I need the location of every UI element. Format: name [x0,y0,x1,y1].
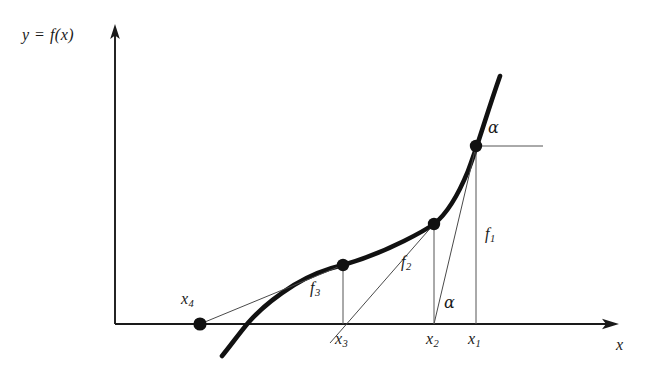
ordinate-lines [343,146,476,324]
ordinate-label-f3-sub: 3 [314,287,320,298]
ordinate-label-f1-sub: 1 [489,233,495,244]
ordinate-label-f2: f2 [401,254,411,273]
figure-root: y = f(x) x x1 x2 x3 x4 f1 f2 f3 α α [0,0,654,371]
angle-label-alpha-bottom: α [444,295,455,311]
tick-label-x1: x1 [468,331,481,350]
secant-lines [200,146,476,343]
point-on-curve-x1 [470,140,482,152]
tick-label-x2-sub: 2 [433,338,439,349]
tick-label-x3-sub: 3 [342,338,348,349]
ordinate-label-f1: f1 [485,226,495,245]
x-axis-label: x [616,337,623,353]
point-on-curve-x3 [337,259,349,271]
ordinate-label-f2-sub: 2 [405,261,411,272]
figure-canvas [0,0,654,371]
angle-label-alpha-top: α [488,120,499,136]
tick-label-x4-sub: 4 [188,298,194,309]
function-curve [222,76,500,356]
tick-label-x1-sub: 1 [475,338,481,349]
y-axis [110,24,120,324]
tick-label-x2: x2 [426,331,439,350]
point-on-curve-x2 [428,218,440,230]
tick-label-x3: x3 [335,331,348,350]
secant-x1-x2 [434,146,476,324]
point-on-axis-x4 [193,317,206,330]
tick-label-x4: x4 [181,291,194,310]
x-axis [115,319,619,329]
secant-x2-x3 [330,224,434,343]
secant-x3-x4 [200,265,343,324]
ordinate-label-f3: f3 [310,280,320,299]
y-axis-label: y = f(x) [22,27,74,43]
